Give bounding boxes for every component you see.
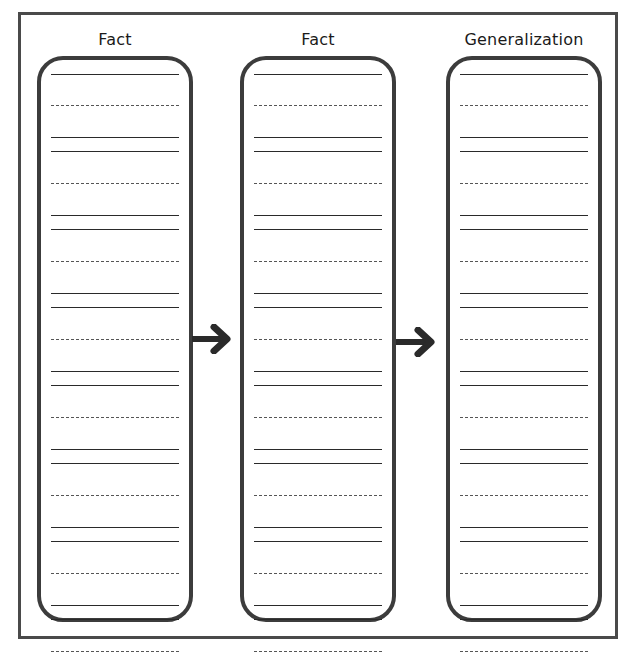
writing-line xyxy=(460,449,588,450)
writing-line xyxy=(460,385,588,386)
writing-line xyxy=(51,215,179,216)
midline-dashed xyxy=(51,261,179,262)
writing-line xyxy=(254,215,382,216)
midline-dashed xyxy=(460,495,588,496)
writing-line xyxy=(254,385,382,386)
column-title-fact-2: Fact xyxy=(240,30,396,52)
writing-line xyxy=(254,449,382,450)
writing-line xyxy=(51,371,179,372)
writing-line xyxy=(51,605,179,606)
writing-line xyxy=(51,74,179,75)
midline-dashed xyxy=(460,651,588,652)
writing-line xyxy=(254,229,382,230)
writing-line xyxy=(254,293,382,294)
writing-line xyxy=(254,307,382,308)
writing-line xyxy=(460,137,588,138)
writing-line xyxy=(460,371,588,372)
writing-line xyxy=(460,463,588,464)
midline-dashed xyxy=(51,339,179,340)
fact-box-1[interactable] xyxy=(37,56,193,622)
midline-dashed xyxy=(254,105,382,106)
column-title-generalization: Generalization xyxy=(446,30,602,52)
midline-dashed xyxy=(460,339,588,340)
writing-line xyxy=(51,151,179,152)
writing-line xyxy=(51,449,179,450)
writing-line xyxy=(51,527,179,528)
midline-dashed xyxy=(460,417,588,418)
writing-line xyxy=(460,605,588,606)
writing-line xyxy=(254,463,382,464)
midline-dashed xyxy=(51,105,179,106)
writing-line xyxy=(51,463,179,464)
midline-dashed xyxy=(254,417,382,418)
writing-line xyxy=(460,527,588,528)
writing-line xyxy=(254,527,382,528)
writing-line xyxy=(460,293,588,294)
writing-line xyxy=(51,229,179,230)
midline-dashed xyxy=(460,183,588,184)
writing-line xyxy=(51,619,179,620)
writing-line xyxy=(254,137,382,138)
midline-dashed xyxy=(254,183,382,184)
writing-line xyxy=(460,307,588,308)
generalization-box[interactable] xyxy=(446,56,602,622)
arrow-right-icon xyxy=(396,327,436,357)
writing-line xyxy=(51,385,179,386)
writing-line xyxy=(254,74,382,75)
fact-box-2[interactable] xyxy=(240,56,396,622)
midline-dashed xyxy=(254,651,382,652)
column-title-fact-1: Fact xyxy=(37,30,193,52)
arrow-right-icon xyxy=(192,324,232,354)
writing-line xyxy=(51,307,179,308)
midline-dashed xyxy=(51,183,179,184)
writing-line xyxy=(51,137,179,138)
writing-line xyxy=(460,151,588,152)
midline-dashed xyxy=(51,651,179,652)
writing-line xyxy=(51,293,179,294)
writing-line xyxy=(460,229,588,230)
writing-line xyxy=(254,605,382,606)
writing-line xyxy=(51,541,179,542)
midline-dashed xyxy=(460,573,588,574)
midline-dashed xyxy=(460,261,588,262)
midline-dashed xyxy=(254,261,382,262)
midline-dashed xyxy=(51,417,179,418)
midline-dashed xyxy=(254,573,382,574)
writing-line xyxy=(460,541,588,542)
writing-line xyxy=(254,541,382,542)
midline-dashed xyxy=(51,495,179,496)
midline-dashed xyxy=(254,339,382,340)
writing-line xyxy=(254,371,382,372)
writing-line xyxy=(460,74,588,75)
midline-dashed xyxy=(51,573,179,574)
writing-line xyxy=(460,215,588,216)
writing-line xyxy=(460,619,588,620)
midline-dashed xyxy=(460,105,588,106)
midline-dashed xyxy=(254,495,382,496)
writing-line xyxy=(254,151,382,152)
writing-line xyxy=(254,619,382,620)
